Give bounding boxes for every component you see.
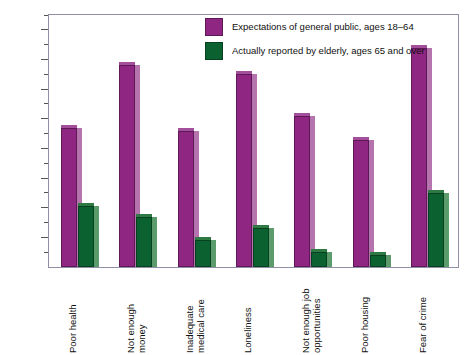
bar-side-face <box>94 206 99 267</box>
y-tick-mark <box>44 163 48 164</box>
bar-side-face <box>310 116 315 267</box>
legend-swatch-public-icon <box>205 18 223 36</box>
y-tick-mark <box>44 44 48 45</box>
bar-front-face <box>178 131 194 267</box>
bar-side-face <box>386 255 391 267</box>
bar-public-not-enough-job-opportunities <box>294 116 310 267</box>
x-axis-label-line: Fear of crime <box>417 297 428 353</box>
bar-side-face <box>327 252 332 267</box>
legend-label-public: Expectations of general public, ages 18–… <box>232 21 414 32</box>
bar-front-face <box>136 217 152 267</box>
bar-elderly-fear-of-crime <box>428 193 444 267</box>
y-tick-mark <box>41 89 48 90</box>
bar-chart: Percent reporting 1020304050607080 Poor … <box>0 0 473 355</box>
y-tick-mark <box>44 222 48 223</box>
bar-front-face <box>61 128 77 267</box>
bar-front-face <box>236 74 252 267</box>
bar-elderly-not-enough-money <box>136 217 152 267</box>
bar-front-face <box>78 206 94 267</box>
legend-label-elderly: Actually reported by elderly, ages 65 an… <box>232 45 425 56</box>
y-tick-mark <box>41 148 48 149</box>
y-tick-mark <box>41 178 48 179</box>
y-tick-mark <box>41 29 48 30</box>
x-axis-label-line: Not enough <box>125 304 136 353</box>
y-tick-mark <box>44 133 48 134</box>
x-axis-label-line: Poor health <box>67 304 78 353</box>
bar-front-face <box>119 65 135 267</box>
x-axis-label-line: opportunities <box>311 299 322 353</box>
bar-elderly-not-enough-job-opportunities <box>311 252 327 267</box>
y-tick-mark <box>44 74 48 75</box>
bar-front-face <box>253 228 269 267</box>
legend-swatch-elderly-icon <box>205 42 223 60</box>
y-tick-mark <box>44 103 48 104</box>
chart-legend: Expectations of general public, ages 18–… <box>205 18 455 66</box>
legend-item-public: Expectations of general public, ages 18–… <box>205 18 455 35</box>
legend-item-elderly: Actually reported by elderly, ages 65 an… <box>205 42 455 59</box>
bar-front-face <box>428 193 444 267</box>
y-tick-mark <box>41 237 48 238</box>
y-tick-mark <box>41 59 48 60</box>
bar-side-face <box>444 193 449 267</box>
bar-side-face <box>152 217 157 267</box>
bar-public-fear-of-crime <box>411 48 427 267</box>
y-tick-mark <box>44 192 48 193</box>
bar-front-face <box>195 240 211 267</box>
x-axis-label-line: Not enough job <box>300 289 311 353</box>
y-tick-mark <box>44 252 48 253</box>
bar-side-face <box>211 240 216 267</box>
bar-front-face <box>294 116 310 267</box>
x-axis-label-line: Loneliness <box>242 308 253 353</box>
bar-group <box>61 15 94 267</box>
bar-side-face <box>369 140 374 267</box>
x-axis-label-line: Inadequate <box>184 305 195 353</box>
bar-front-face <box>411 48 427 267</box>
x-axis-label-line: money <box>136 324 147 353</box>
bar-elderly-poor-housing <box>370 255 386 267</box>
bar-group <box>119 15 152 267</box>
bar-front-face <box>311 252 327 267</box>
y-tick-mark <box>41 118 48 119</box>
bar-front-face <box>353 140 369 267</box>
y-tick-mark <box>41 207 48 208</box>
bar-elderly-loneliness <box>253 228 269 267</box>
bar-elderly-poor-health <box>78 206 94 267</box>
bar-elderly-inadequate-medical-care <box>195 240 211 267</box>
bar-public-loneliness <box>236 74 252 267</box>
bar-front-face <box>370 255 386 267</box>
bar-side-face <box>269 228 274 267</box>
bar-public-poor-housing <box>353 140 369 267</box>
x-axis-label-line: medical care <box>195 299 206 353</box>
bar-public-inadequate-medical-care <box>178 131 194 267</box>
x-axis-label-line: Poor housing <box>359 297 370 353</box>
x-axis-labels: Poor healthNot enoughmoneyInadequatemedi… <box>49 271 458 355</box>
bar-public-not-enough-money <box>119 65 135 267</box>
bar-public-poor-health <box>61 128 77 267</box>
y-tick-mark <box>44 15 48 16</box>
